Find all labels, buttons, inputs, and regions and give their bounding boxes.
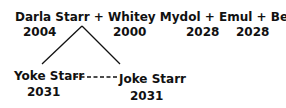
year-whitey-mydol: 2000	[113, 25, 146, 39]
child-name-joke-starr: Joke Starr	[119, 72, 186, 86]
parents-line: Darla Starr + Whitey Mydol + Emul + Bere…	[15, 10, 286, 24]
child-year-joke-starr: 2031	[130, 89, 163, 103]
year-berenice: 2028	[236, 25, 269, 39]
child-year-yoke-starr: 2031	[27, 85, 60, 99]
year-emul: 2028	[186, 25, 219, 39]
child-name-yoke-starr: Yoke Starr	[14, 69, 84, 83]
year-darla-starr: 2004	[23, 25, 56, 39]
